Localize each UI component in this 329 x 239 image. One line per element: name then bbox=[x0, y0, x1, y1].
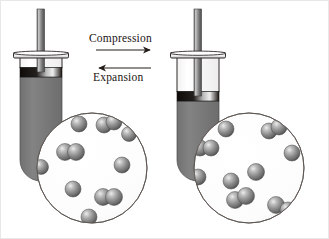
molecule-pair bbox=[95, 189, 123, 206]
left-syringe-plunger-rod bbox=[37, 9, 45, 72]
expansion-label: Expansion bbox=[93, 71, 143, 83]
molecule-single bbox=[122, 127, 137, 142]
molecule-single bbox=[65, 181, 81, 197]
left-syringe-flange-lip bbox=[14, 51, 69, 55]
gas-compression-figure: Compression Expansion bbox=[0, 0, 329, 239]
compression-label: Compression bbox=[89, 32, 152, 44]
molecule-single bbox=[114, 157, 130, 173]
figure-canvas bbox=[0, 0, 329, 239]
process-arrows bbox=[96, 50, 151, 68]
molecule-single bbox=[248, 164, 265, 181]
molecule-single bbox=[223, 173, 239, 189]
molecule-single bbox=[71, 116, 87, 132]
molecule-pair bbox=[57, 144, 85, 161]
molecule-single bbox=[218, 121, 234, 137]
right-syringe-flange-lip bbox=[171, 51, 226, 55]
molecule-single bbox=[284, 145, 300, 161]
